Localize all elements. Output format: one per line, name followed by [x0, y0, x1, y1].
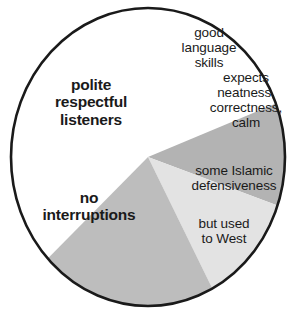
pie-chart-svg [0, 0, 294, 317]
pie-chart-figure: polite respectful listeners no interrupt… [0, 0, 294, 317]
